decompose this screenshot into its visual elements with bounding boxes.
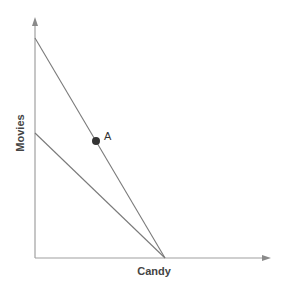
y-axis-arrow-icon (32, 17, 38, 26)
y-axis-label: Movies (14, 114, 26, 151)
point-a-label: A (104, 130, 112, 142)
budget-line-original (35, 38, 165, 258)
x-axis-arrow-icon (262, 255, 271, 261)
x-axis-label: Candy (137, 265, 172, 277)
budget-constraint-diagram: A Candy Movies (0, 0, 286, 286)
budget-line-new (35, 133, 165, 258)
point-a-marker (92, 137, 100, 145)
